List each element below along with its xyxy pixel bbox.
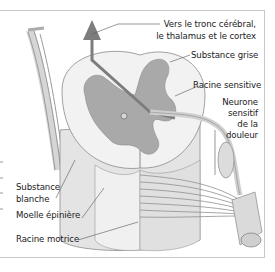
- dorsal-root-ganglion: [218, 142, 234, 178]
- spinal-nerve-bundle: [232, 192, 262, 247]
- nerve-cut-end: [241, 233, 261, 247]
- label-white-matter-2: blanche: [16, 194, 49, 205]
- label-pain-neuron-1: Neurone: [210, 97, 258, 108]
- label-tract-line2: le thalamus et le cortex: [140, 31, 256, 42]
- label-pain-neuron-2: sensitif: [210, 108, 258, 119]
- edge-ticks: [0, 162, 3, 209]
- label-pain-neuron-4: douleur: [210, 130, 258, 141]
- label-pain-neuron-3: de la: [210, 119, 258, 130]
- label-tract-line1: Vers le tronc cérébral,: [160, 19, 256, 30]
- label-motor-root: Racine motrice: [16, 234, 79, 245]
- label-sensory-root: Racine sensitive: [193, 80, 261, 91]
- white-matter-body: [60, 51, 205, 250]
- left-nerve-bundle: [28, 28, 64, 170]
- label-grey-matter: Substance grise: [191, 50, 258, 61]
- label-spinal-cord: Moelle épinière: [16, 210, 80, 221]
- central-canal: [121, 113, 127, 119]
- label-white-matter-1: Substance: [16, 182, 60, 193]
